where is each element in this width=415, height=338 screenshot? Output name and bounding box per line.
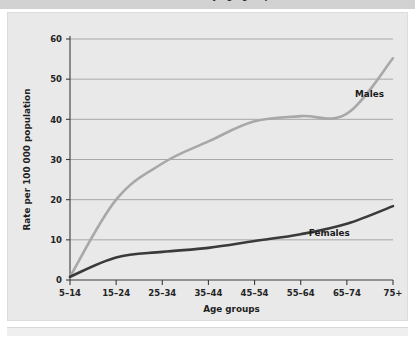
x-tick-label: 15–24 — [102, 288, 130, 298]
y-tick-label: 50 — [50, 74, 62, 84]
x-tick-label: 25–34 — [148, 288, 176, 298]
chart-panel: 01020304050605–1415–2425–3435–4445–5455–… — [7, 12, 408, 321]
y-tick-label: 20 — [50, 195, 62, 205]
x-tick-label: 35–44 — [194, 288, 222, 298]
y-tick-label: 30 — [50, 155, 62, 165]
y-tick-label: 60 — [50, 34, 62, 44]
y-tick-label: 0 — [56, 275, 62, 285]
x-tick-label: 65–74 — [333, 288, 361, 298]
figure-caption: Suicide rates by age groups — [0, 0, 415, 1]
figure-container: Suicide rates by age groups 010203040506… — [0, 0, 415, 338]
series-label-males: Males — [355, 89, 384, 99]
series-label-females: Females — [309, 228, 350, 238]
series-line-females — [70, 206, 393, 277]
y-tick-label: 40 — [50, 115, 62, 125]
x-tick-label: 5–14 — [59, 288, 81, 298]
x-tick-label: 55–64 — [287, 288, 315, 298]
y-tick-label: 10 — [50, 235, 62, 245]
x-axis-title: Age groups — [203, 304, 260, 314]
figure-footer-strip — [7, 327, 408, 336]
x-tick-label: 75+ — [384, 288, 403, 298]
line-chart: 01020304050605–1415–2425–3435–4445–5455–… — [8, 13, 409, 322]
y-axis-title: Rate per 100 000 population — [22, 89, 32, 231]
x-tick-label: 45–54 — [241, 288, 269, 298]
figure-caption-strip: Suicide rates by age groups — [0, 0, 415, 9]
